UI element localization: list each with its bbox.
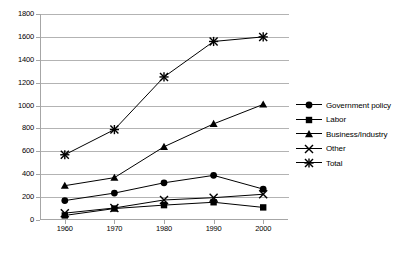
- legend-marker-glyph: [296, 128, 322, 140]
- legend-item-business-industry: Business/Industry: [296, 127, 402, 142]
- legend-marker-glyph: [296, 114, 322, 126]
- data-point-marker-asterisk: [209, 37, 218, 46]
- x-axis-tick-mark: [114, 220, 115, 224]
- data-point-marker-triangle: [160, 143, 168, 150]
- data-point-marker-triangle: [210, 120, 218, 127]
- data-point-marker-asterisk: [110, 125, 119, 134]
- x-axis-tick-label: 1960: [45, 224, 85, 233]
- y-axis-tick-mark: [36, 220, 40, 221]
- data-point-marker-cross-x: [305, 145, 313, 153]
- data-point-marker-triangle: [110, 174, 118, 181]
- legend-item-government-policy: Government policy: [296, 98, 402, 113]
- y-axis-tick-label: 1800: [0, 10, 34, 18]
- y-axis-tick-label: 1600: [0, 33, 34, 41]
- data-point-marker-circle: [161, 179, 168, 186]
- y-axis-tick-label: 600: [0, 147, 34, 155]
- legend-marker-circle-icon: [296, 99, 322, 111]
- legend-item-other: Other: [296, 142, 402, 157]
- line-chart: 020040060080010001200140016001800 196019…: [0, 0, 404, 265]
- legend-item-labor: Labor: [296, 113, 402, 128]
- y-axis-tick-label: 1000: [0, 102, 34, 110]
- legend-marker-glyph: [296, 99, 322, 111]
- data-point-marker-square: [260, 204, 266, 210]
- legend-item-label: Total: [322, 159, 342, 168]
- data-point-marker-circle: [306, 102, 313, 109]
- legend-item-label: Business/Industry: [322, 130, 387, 139]
- series-line: [65, 37, 263, 155]
- legend-item-label: Labor: [322, 115, 346, 124]
- chart-legend: Government policyLaborBusiness/IndustryO…: [296, 98, 402, 171]
- data-point-marker-asterisk: [159, 72, 168, 81]
- y-axis-tick-label: 1200: [0, 79, 34, 87]
- legend-item-label: Government policy: [322, 101, 391, 110]
- x-axis-tick-label: 1990: [194, 224, 234, 233]
- legend-marker-glyph: [296, 157, 322, 169]
- legend-item-total: Total: [296, 156, 402, 171]
- y-axis-tick-label: 800: [0, 124, 34, 132]
- data-point-marker-asterisk: [259, 32, 268, 41]
- data-point-marker-asterisk: [60, 150, 69, 159]
- y-axis-tick-label: 400: [0, 170, 34, 178]
- x-axis-tick-label: 1980: [144, 224, 184, 233]
- legend-marker-cross-x-icon: [296, 143, 322, 155]
- x-axis-tick-label: 1970: [94, 224, 134, 233]
- y-axis-tick-label: 0: [0, 216, 34, 224]
- data-point-marker-triangle: [305, 130, 313, 137]
- data-point-marker-square: [306, 117, 312, 123]
- x-axis-tick-label: 2000: [243, 224, 283, 233]
- series-layer: [40, 14, 288, 220]
- legend-item-label: Other: [322, 144, 346, 153]
- data-point-marker-circle: [61, 197, 68, 204]
- legend-marker-asterisk-icon: [296, 157, 322, 169]
- x-axis-tick-mark: [263, 220, 264, 224]
- legend-marker-glyph: [296, 143, 322, 155]
- x-axis-tick-mark: [164, 220, 165, 224]
- data-point-marker-circle: [210, 172, 217, 179]
- x-axis-tick-mark: [214, 220, 215, 224]
- x-axis-tick-mark: [65, 220, 66, 224]
- data-point-marker-triangle: [259, 100, 267, 107]
- legend-marker-square-icon: [296, 114, 322, 126]
- legend-marker-triangle-icon: [296, 128, 322, 140]
- y-axis-tick-label: 1400: [0, 56, 34, 64]
- y-axis-tick-label: 200: [0, 193, 34, 201]
- data-point-marker-circle: [111, 190, 118, 197]
- data-point-marker-asterisk: [304, 159, 313, 168]
